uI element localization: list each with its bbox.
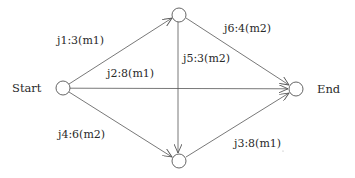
node-start xyxy=(56,81,70,95)
node-label-start: Start xyxy=(12,82,41,94)
node-label-end: End xyxy=(317,83,340,95)
edge-j2 xyxy=(70,88,288,89)
graph-canvas xyxy=(0,0,355,178)
edge-label-j1: j1:3(m1) xyxy=(57,35,104,47)
node-bottom xyxy=(172,154,186,168)
edge-label-j3: j3:8(m1) xyxy=(234,138,281,150)
edge-label-j5: j5:3(m2) xyxy=(183,53,230,65)
stray-dot xyxy=(282,150,283,151)
node-top xyxy=(172,8,186,22)
edge-label-j6: j6:4(m2) xyxy=(224,23,271,35)
edge-j4 xyxy=(69,92,172,157)
node-end xyxy=(289,82,303,96)
edge-label-j4: j4:6(m2) xyxy=(58,129,105,141)
edge-label-j2: j2:8(m1) xyxy=(107,68,154,80)
